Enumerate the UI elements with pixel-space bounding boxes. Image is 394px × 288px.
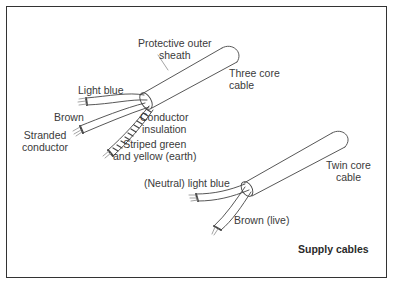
diagram-title: Supply cables (298, 244, 369, 256)
label-insulation-line1: Conductor (140, 112, 188, 124)
label-sheath-line1: Protective outer (138, 38, 212, 50)
label-earth-line2: and yellow (earth) (113, 151, 196, 163)
label-three-core-line2: cable (229, 80, 280, 92)
label-stranded-line1: Stranded (22, 130, 68, 142)
label-stranded-line2: conductor (22, 142, 68, 154)
label-sheath-line2: sheath (138, 50, 212, 62)
label-brown: Brown (54, 112, 84, 124)
label-neutral: (Neutral) light blue (144, 178, 230, 190)
label-insulation-line2: insulation (140, 124, 188, 136)
label-three-core-line1: Three core (229, 68, 280, 80)
label-earth: Striped green and yellow (earth) (113, 139, 196, 162)
label-twin-core-line1: Twin core (326, 160, 371, 172)
label-earth-line1: Striped green (113, 139, 196, 151)
label-twin-core-line2: cable (326, 172, 371, 184)
label-protective-sheath: Protective outer sheath (138, 38, 212, 61)
label-three-core-cable: Three core cable (229, 68, 280, 91)
label-twin-core-cable: Twin core cable (326, 160, 371, 183)
label-light-blue: Light blue (78, 85, 124, 97)
label-live: Brown (live) (234, 215, 289, 227)
label-conductor-insulation: Conductor insulation (140, 112, 188, 135)
label-stranded-conductor: Stranded conductor (22, 130, 68, 153)
